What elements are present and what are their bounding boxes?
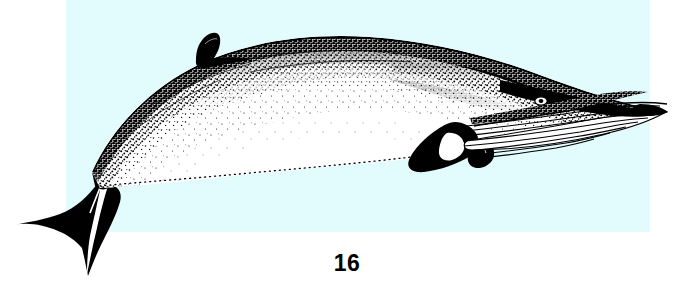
figure-number-caption: 16 [0, 252, 694, 275]
whale-illustration [0, 0, 694, 290]
plate-page: 16 [0, 0, 694, 290]
whale-body [0, 0, 694, 290]
figure-number-text: 16 [334, 252, 361, 275]
eye [535, 97, 547, 105]
